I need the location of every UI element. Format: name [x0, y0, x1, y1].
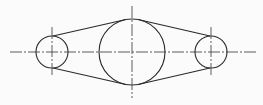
drawing-canvas [0, 0, 263, 105]
lower-right-belt-line [138, 68, 210, 85]
pulley-diagram [0, 0, 263, 105]
upper-left-belt-line [53, 20, 126, 37]
lower-left-belt-line [53, 68, 126, 85]
upper-right-belt-line [138, 20, 210, 37]
